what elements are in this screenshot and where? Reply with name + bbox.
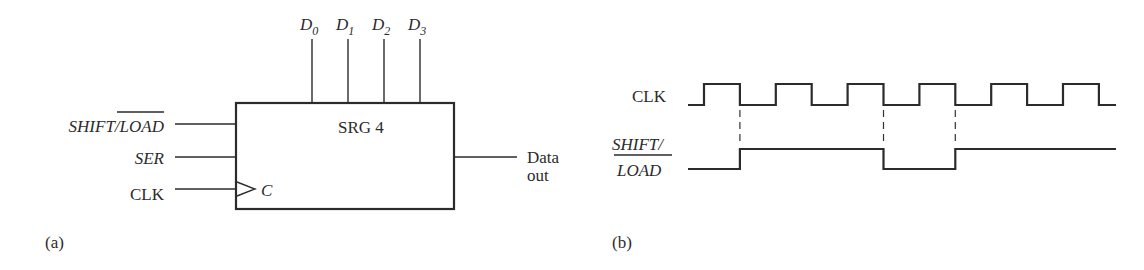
shift-register-block-diagram: SRG 4 D0 D1 D2 D3 SHIFT/LOAD SER CLK C D… [45,15,560,252]
data-out-label-line2: out [527,166,549,185]
clock-edge-triangle-icon [237,182,255,196]
figure: SRG 4 D0 D1 D2 D3 SHIFT/LOAD SER CLK C D… [0,0,1144,270]
ser-label: SER [135,149,165,168]
caption-a: (a) [45,233,64,252]
timing-shift-label: SHIFT/ [612,135,665,154]
timing-load-label: LOAD [616,161,662,180]
d0-label: D0 [299,15,318,38]
d1-label: D1 [335,15,354,38]
clk-waveform [688,84,1116,105]
block-label: SRG 4 [338,118,384,137]
d2-label: D2 [371,15,390,38]
clock-pin-label: C [261,181,273,200]
shift-load-waveform [688,149,1116,169]
clk-label: CLK [130,185,165,204]
d3-label: D3 [407,15,426,38]
timing-diagram: CLK SHIFT/ LOAD (b) [612,84,1116,252]
shift-load-label: SHIFT/LOAD [69,117,165,136]
data-out-label-line1: Data [527,148,560,167]
timing-clk-label: CLK [632,87,667,106]
caption-b: (b) [612,233,632,252]
edge-marker-lines [740,110,955,146]
